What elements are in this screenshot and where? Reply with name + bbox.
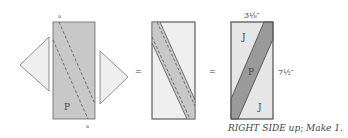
- piecing-diagram: P a a = = J P J 3⅛″ 7½″: [0, 0, 348, 138]
- p-rectangle: [53, 22, 95, 119]
- right-triangle: [100, 51, 128, 104]
- height-dimension: 7½″: [278, 68, 294, 77]
- p-label: P: [64, 102, 70, 112]
- left-triangle: [20, 37, 49, 91]
- j-label-bottom: J: [257, 102, 262, 112]
- j-label-top: J: [241, 32, 246, 42]
- seam-mark-bottom: a: [86, 123, 89, 129]
- equals-sign-2: =: [209, 67, 216, 76]
- width-dimension: 3⅛″: [244, 11, 260, 20]
- result-caption: RIGHT SIDE up; Make 1.: [228, 123, 343, 133]
- p-label-strip: P: [248, 67, 254, 77]
- seam-mark-top: a: [58, 13, 61, 19]
- equals-sign-1: =: [135, 67, 142, 76]
